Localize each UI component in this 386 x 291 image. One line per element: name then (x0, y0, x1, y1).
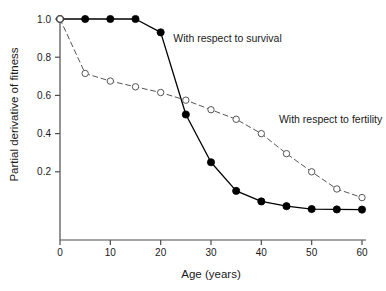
data-point-fertility-55 (334, 186, 340, 192)
x-tick-label-30: 30 (205, 247, 217, 258)
data-point-fertility-0 (57, 16, 63, 22)
data-point-survival-60 (358, 206, 365, 213)
x-tick-label-10: 10 (105, 247, 117, 258)
data-point-survival-20 (157, 29, 164, 36)
chart-figure: 0.20.40.60.81.00102030405060Age (years)P… (0, 0, 386, 291)
data-point-fertility-60 (359, 194, 365, 200)
data-point-fertility-10 (107, 78, 113, 84)
data-point-fertility-5 (82, 70, 88, 76)
y-tick-label-0.2: 0.2 (37, 166, 51, 177)
data-point-survival-55 (333, 206, 340, 213)
x-tick-label-0: 0 (57, 247, 63, 258)
data-point-fertility-50 (308, 169, 314, 175)
data-point-fertility-45 (283, 150, 289, 156)
data-point-survival-5 (82, 15, 89, 22)
data-point-fertility-40 (258, 130, 264, 136)
y-axis-title: Partial derivative of fitness (8, 47, 20, 181)
data-point-survival-35 (233, 187, 240, 194)
data-point-fertility-15 (132, 84, 138, 90)
y-tick-label-1.0: 1.0 (37, 14, 51, 25)
data-point-survival-25 (182, 111, 189, 118)
data-point-fertility-30 (208, 107, 214, 113)
data-point-fertility-20 (157, 89, 163, 95)
y-tick-label-0.6: 0.6 (37, 90, 51, 101)
x-tick-label-40: 40 (256, 247, 268, 258)
data-point-survival-50 (308, 205, 315, 212)
x-tick-label-20: 20 (155, 247, 167, 258)
data-point-survival-10 (107, 15, 114, 22)
x-tick-label-60: 60 (356, 247, 368, 258)
data-point-survival-15 (132, 15, 139, 22)
line-chart: 0.20.40.60.81.00102030405060Age (years)P… (0, 0, 386, 291)
data-point-fertility-35 (233, 116, 239, 122)
x-axis-title: Age (years) (181, 268, 241, 280)
y-tick-label-0.8: 0.8 (37, 52, 51, 63)
data-point-fertility-25 (183, 97, 189, 103)
data-point-survival-30 (207, 159, 214, 166)
data-point-survival-45 (283, 203, 290, 210)
annotation-label-2: With respect to fertility (279, 113, 383, 125)
y-tick-label-0.4: 0.4 (37, 128, 51, 139)
data-point-survival-40 (258, 198, 265, 205)
x-tick-label-50: 50 (306, 247, 318, 258)
annotation-label-1: With respect to survival (173, 32, 282, 44)
